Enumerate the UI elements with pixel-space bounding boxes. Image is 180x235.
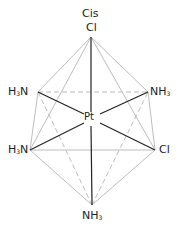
ligand-top: Cl: [86, 22, 97, 33]
ligand-bottom: NH3: [82, 210, 102, 221]
ligand-lower-right: Cl: [159, 144, 170, 155]
ligand-lower-left: H3N: [8, 144, 28, 155]
isomer-title: Cis: [82, 8, 98, 19]
bond-lower-right: [100, 123, 155, 150]
bond-lower-left: [30, 123, 84, 150]
ligand-upper-right: NH3: [150, 86, 170, 97]
ligand-upper-left: H3N: [8, 86, 28, 97]
center-atom: Pt: [84, 112, 94, 122]
bond-upper-left: [38, 92, 84, 114]
bond-bottom: [91, 126, 92, 205]
